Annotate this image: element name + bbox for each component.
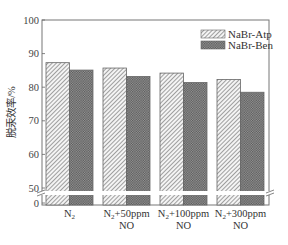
legend: NaBr-AtpNaBr-Ben	[201, 28, 273, 51]
bar-nabr-atp-3	[217, 79, 241, 205]
y-tick-label: 0	[34, 198, 39, 209]
y-tick-label: 50	[29, 183, 40, 194]
y-tick-label: 70	[29, 115, 40, 126]
bar-nabr-ben-1	[127, 76, 151, 205]
category-label-line2-1: NO	[119, 220, 135, 231]
y-tick-label: 100	[23, 15, 39, 26]
bar-chart: 05060708090100 N2N2+50ppmNON2+100ppmNON2…	[0, 0, 288, 245]
y-axis-label: 脱汞效率/%	[5, 86, 17, 138]
legend-label-1: NaBr-Ben	[228, 39, 273, 51]
bar-nabr-atp-1	[103, 68, 127, 205]
y-tick-label: 90	[29, 48, 40, 59]
bar-nabr-ben-0	[70, 70, 94, 205]
legend-swatch-0	[201, 30, 225, 38]
bars	[36, 63, 277, 205]
y-tick-label: 60	[29, 149, 40, 160]
bar-nabr-atp-0	[46, 63, 70, 205]
category-label-line2-2: NO	[176, 220, 192, 231]
x-axis-categories: N2N2+50ppmNON2+100ppmNON2+300ppmNO	[64, 208, 266, 231]
category-label-0: N2	[64, 208, 76, 221]
bar-nabr-ben-2	[184, 82, 208, 205]
category-label-line2-3: NO	[233, 220, 249, 231]
bar-nabr-ben-3	[241, 92, 265, 205]
axis-break-band	[36, 191, 277, 195]
legend-swatch-1	[201, 41, 225, 49]
bar-nabr-atp-2	[160, 73, 184, 205]
y-tick-label: 80	[29, 82, 40, 93]
